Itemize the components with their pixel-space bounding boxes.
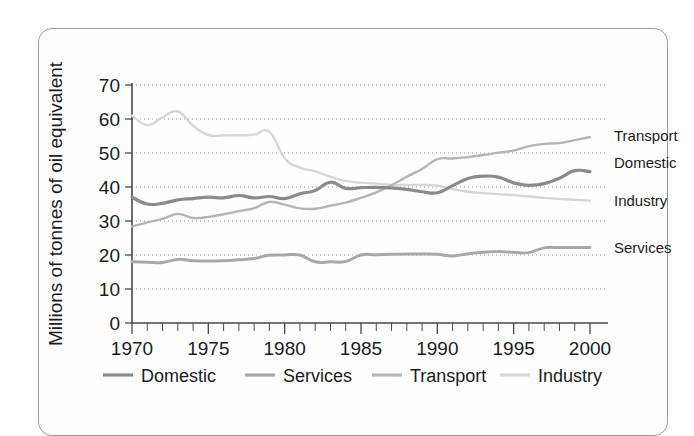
legend-label-domestic: Domestic — [141, 366, 216, 386]
end-label-industry: Industry — [614, 192, 668, 209]
legend-label-services: Services — [283, 366, 352, 386]
x-tick-label-2000: 2000 — [569, 338, 611, 359]
y-tick-label-70: 70 — [99, 75, 120, 96]
legend-label-transport: Transport — [410, 366, 486, 386]
y-tick-label-60: 60 — [99, 109, 120, 130]
y-axis: 010203040506070 — [99, 75, 132, 334]
chart-legend: DomesticServicesTransportIndustry — [103, 366, 602, 386]
y-tick-label-0: 0 — [109, 313, 120, 334]
x-axis: 1970197519801985199019952000 — [111, 323, 611, 359]
end-label-transport: Transport — [614, 127, 678, 144]
x-tick-label-1990: 1990 — [416, 338, 458, 359]
end-label-services: Services — [614, 239, 672, 256]
x-tick-label-1985: 1985 — [340, 338, 382, 359]
series-end-labels: DomesticServicesTransportIndustry — [614, 127, 678, 256]
end-label-domestic: Domestic — [614, 154, 677, 171]
y-tick-label-20: 20 — [99, 245, 120, 266]
legend-label-industry: Industry — [538, 366, 602, 386]
x-tick-label-1970: 1970 — [111, 338, 153, 359]
gridlines — [132, 85, 608, 323]
y-axis-title: Millions of tonnes of oil equivalent — [45, 61, 66, 346]
y-tick-label-50: 50 — [99, 143, 120, 164]
x-tick-label-1995: 1995 — [493, 338, 535, 359]
y-tick-label-10: 10 — [99, 279, 120, 300]
y-tick-label-30: 30 — [99, 211, 120, 232]
x-tick-label-1975: 1975 — [187, 338, 229, 359]
x-tick-label-1980: 1980 — [264, 338, 306, 359]
y-tick-label-40: 40 — [99, 177, 120, 198]
